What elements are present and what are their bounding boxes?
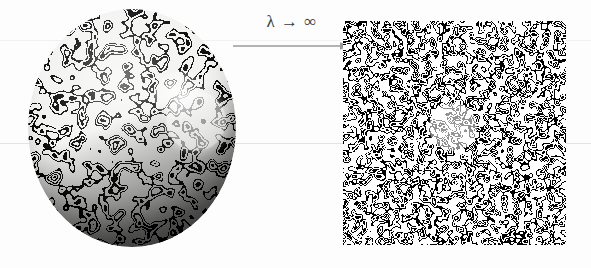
sphere-pattern-svg [28, 9, 236, 247]
plane-panel [343, 21, 566, 245]
sphere-pattern-image [28, 9, 236, 247]
limit-label: λ → ∞ [232, 12, 352, 32]
limit-arrow-group: λ → ∞ [232, 12, 352, 57]
plane-pattern-image [343, 21, 566, 245]
plane-pattern-svg [343, 21, 566, 245]
right-arrow-icon [232, 39, 352, 53]
sphere-panel [28, 9, 238, 249]
figure-canvas: λ → ∞ [0, 0, 591, 268]
